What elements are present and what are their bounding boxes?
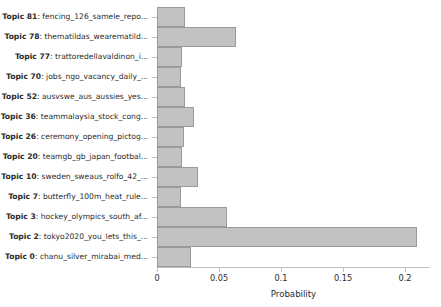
category-label-topic-words: : teammalaysia_stock_cong... [36, 112, 148, 121]
bar-fill [157, 67, 181, 87]
category-label: Topic 20: teamgb_gb_japan_footbal... [0, 152, 148, 162]
value-axis-tick-label: 0.15 [323, 273, 363, 283]
category-label-topic-number: Topic 78 [4, 32, 39, 41]
category-label: Topic 2: tokyo2020_you_lets_this_... [0, 232, 148, 242]
category-label-topic-words: : jobs_ngo_vacancy_daily_... [41, 72, 148, 81]
category-label-topic-words: : chanu_silver_mirabai_med... [35, 252, 148, 261]
value-axis-tick [281, 268, 282, 272]
value-axis-tick [405, 268, 406, 272]
category-label: Topic 36: teammalaysia_stock_cong... [0, 112, 148, 122]
bar [157, 7, 185, 27]
bar-fill [157, 87, 185, 107]
category-tick [152, 117, 157, 118]
category-label: Topic 3: hockey_olympics_south_af... [0, 212, 148, 222]
category-label: Topic 52: ausvswe_aus_aussies_yes... [0, 92, 148, 102]
category-label: Topic 7: butterfly_100m_heat_rule... [0, 192, 148, 202]
category-label: Topic 78: thematildas_wearematild... [0, 32, 148, 42]
category-label-topic-words: : ausvswe_aus_aussies_yes... [37, 92, 148, 101]
category-label: Topic 26: ceremony_opening_pictog... [0, 132, 148, 142]
category-label-topic-words: : hockey_olympics_south_af... [36, 212, 148, 221]
topic-probability-bar-chart: Topic 81: fencing_126_samele_repo...Topi… [0, 0, 441, 307]
bar [157, 207, 227, 227]
x-axis-title: Probability [157, 289, 430, 299]
category-label: Topic 70: jobs_ngo_vacancy_daily_... [0, 72, 148, 82]
category-tick [152, 237, 157, 238]
bar [157, 87, 185, 107]
bar-fill [157, 227, 417, 247]
category-tick [152, 17, 157, 18]
bar [157, 67, 181, 87]
value-axis-tick [343, 268, 344, 272]
bar-fill [157, 27, 236, 47]
value-axis-tick [219, 268, 220, 272]
category-label-topic-words: : ceremony_opening_pictog... [36, 132, 148, 141]
category-label: Topic 77: trattoredellavaldinon_i... [0, 52, 148, 62]
category-tick [152, 157, 157, 158]
bar-fill [157, 107, 194, 127]
category-label-topic-number: Topic 26 [1, 132, 36, 141]
category-label: Topic 0: chanu_silver_mirabai_med... [0, 252, 148, 262]
value-axis-tick-label: 0.2 [385, 273, 425, 283]
category-label: Topic 10: sweden_sweaus_rolfo_42_... [0, 172, 148, 182]
category-label-topic-words: : tokyo2020_you_lets_this_... [39, 232, 148, 241]
bar-fill [157, 247, 191, 267]
category-label-topic-words: : trattoredellavaldinon_i... [50, 52, 148, 61]
category-tick [152, 57, 157, 58]
bar-fill [157, 147, 182, 167]
value-axis-tick [157, 268, 158, 272]
category-label-topic-number: Topic 52 [2, 92, 37, 101]
bar-fill [157, 187, 181, 207]
value-axis-tick-label: 0.1 [261, 273, 301, 283]
category-label-topic-number: Topic 3 [6, 212, 36, 221]
bar-fill [157, 7, 185, 27]
bar [157, 127, 184, 147]
category-label-topic-number: Topic 10 [1, 172, 36, 181]
value-axis-tick-label: 0.05 [199, 273, 239, 283]
category-tick [152, 257, 157, 258]
category-label-topic-words: : butterfly_100m_heat_rule... [38, 192, 148, 201]
value-axis-tick-label: 0 [137, 273, 177, 283]
category-tick [152, 77, 157, 78]
category-tick [152, 177, 157, 178]
category-label-topic-number: Topic 7 [8, 192, 38, 201]
bar-fill [157, 127, 184, 147]
category-tick [152, 97, 157, 98]
bar [157, 47, 182, 67]
category-label-topic-words: : fencing_126_samele_repo... [37, 12, 148, 21]
category-label-topic-number: Topic 81 [2, 12, 37, 21]
category-tick [152, 37, 157, 38]
category-label-topic-number: Topic 77 [15, 52, 50, 61]
category-tick [152, 197, 157, 198]
value-axis-line [157, 267, 430, 268]
bar [157, 167, 198, 187]
category-label-topic-number: Topic 2 [9, 232, 39, 241]
category-label-topic-words: : teamgb_gb_japan_footbal... [38, 152, 148, 161]
bar-fill [157, 47, 182, 67]
bar [157, 147, 182, 167]
bar-fill [157, 207, 227, 227]
bar-fill [157, 167, 198, 187]
category-label-topic-number: Topic 0 [5, 252, 35, 261]
category-label-topic-number: Topic 36 [1, 112, 36, 121]
category-label: Topic 81: fencing_126_samele_repo... [0, 12, 148, 22]
category-tick [152, 217, 157, 218]
category-label-topic-words: : thematildas_wearematild... [40, 32, 148, 41]
bar [157, 107, 194, 127]
category-tick [152, 137, 157, 138]
bar [157, 247, 191, 267]
bar [157, 187, 181, 207]
bar [157, 227, 417, 247]
category-label-topic-number: Topic 70 [6, 72, 41, 81]
category-label-topic-words: : sweden_sweaus_rolfo_42_... [37, 172, 149, 181]
category-label-topic-number: Topic 20 [3, 152, 38, 161]
bar [157, 27, 236, 47]
